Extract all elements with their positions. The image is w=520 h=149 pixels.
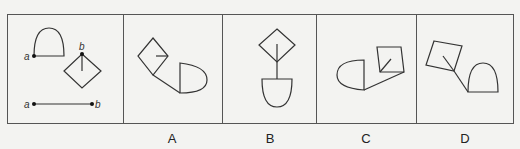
point-label-a: a [24,99,30,110]
option-b-label[interactable]: B [260,131,280,146]
option-d-figure[interactable] [416,14,514,124]
diamond-shape [64,52,101,88]
point-label-b: b [95,99,101,110]
option-c-label[interactable]: C [356,131,376,146]
point-label-a: a [24,51,30,62]
option-a-figure[interactable] [123,14,222,124]
question-panel: a b a b [7,14,123,124]
option-b-figure[interactable] [222,14,316,124]
semicircle-shape [32,28,64,58]
point-label-b: b [79,41,85,52]
segment-ab [32,102,94,106]
option-a-label[interactable]: A [162,131,182,146]
option-d-label[interactable]: D [455,131,475,146]
option-c-figure[interactable] [316,14,416,124]
